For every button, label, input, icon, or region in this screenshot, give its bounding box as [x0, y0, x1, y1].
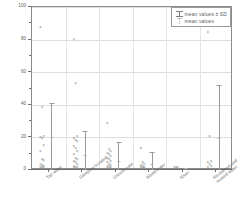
- gridline: [32, 72, 231, 73]
- data-point-marker: ×: [207, 31, 210, 36]
- y-tick-label: 20: [0, 134, 26, 139]
- data-point-marker: ×: [176, 166, 179, 171]
- y-tick: [28, 6, 31, 7]
- error-bar: [152, 152, 153, 170]
- group-separator: [200, 7, 201, 168]
- y-tick-minor: [29, 55, 31, 56]
- y-tick-label: 80: [0, 36, 26, 41]
- group-separator: [99, 7, 100, 168]
- mean-marker: [151, 164, 154, 165]
- legend: mean values ± SD mean values: [171, 7, 231, 27]
- data-point-marker: ×: [207, 166, 210, 171]
- data-point-marker: ×: [42, 167, 45, 172]
- y-tick: [28, 71, 31, 72]
- chart-container: EC(mS/m) ×××××××××××××××××××××××××××××××…: [0, 0, 240, 217]
- y-tick-minor: [29, 120, 31, 121]
- error-bar-cap: [49, 103, 54, 104]
- data-point-marker: ×: [74, 81, 77, 86]
- legend-label-mean: mean values: [185, 18, 214, 24]
- data-point-marker: ×: [106, 167, 109, 172]
- y-tick-minor: [29, 153, 31, 154]
- data-point-marker: ×: [76, 166, 79, 171]
- data-point-marker: ×: [41, 106, 44, 111]
- data-point-marker: ×: [208, 135, 211, 140]
- y-tick-label: 100: [0, 3, 26, 8]
- data-point-marker: ×: [39, 150, 42, 155]
- data-point-marker: ×: [73, 37, 76, 42]
- error-bar-cap: [150, 152, 155, 153]
- legend-label-mean-sd: mean values ± SD: [185, 11, 227, 17]
- legend-item-mean: mean values: [174, 17, 227, 24]
- data-point-marker: ×: [41, 137, 44, 142]
- mean-marker: [50, 137, 53, 138]
- data-point-marker: ×: [39, 26, 42, 31]
- error-bar-cap: [83, 131, 88, 132]
- y-tick-label: 60: [0, 69, 26, 74]
- y-tick-label: 40: [0, 101, 26, 106]
- data-point-marker: ×: [73, 167, 76, 172]
- y-tick: [28, 169, 31, 170]
- y-tick: [28, 104, 31, 105]
- error-bar: [85, 131, 86, 170]
- x-tick-label: River: [179, 170, 190, 180]
- data-point-marker: ×: [210, 164, 213, 169]
- mean-marker-icon: [174, 17, 185, 24]
- error-bar-cap: [116, 142, 121, 143]
- data-point-marker: ×: [140, 147, 143, 152]
- y-tick: [28, 39, 31, 40]
- error-bar: [219, 85, 220, 170]
- data-point-marker: ×: [106, 122, 109, 127]
- y-tick-minor: [29, 88, 31, 89]
- y-tick-label: 0: [0, 166, 26, 171]
- group-separator: [133, 7, 134, 168]
- gridline: [32, 40, 231, 41]
- gridline: [32, 105, 231, 106]
- data-point-marker: ×: [42, 144, 45, 149]
- mean-marker: [218, 138, 221, 139]
- error-bar-cap: [217, 85, 222, 86]
- y-tick: [28, 136, 31, 137]
- data-point-marker: ×: [143, 167, 146, 172]
- group-separator: [66, 7, 67, 168]
- errorbar-icon: [174, 10, 185, 17]
- data-point-marker: ×: [76, 150, 79, 155]
- mean-marker: [117, 161, 120, 162]
- mean-marker: [84, 155, 87, 156]
- plot-area: ××××××××××××××××××××××××××××××××××××××××…: [31, 6, 232, 169]
- data-point-marker: ×: [76, 140, 79, 145]
- data-point-marker: ×: [109, 166, 112, 171]
- legend-item-mean-sd: mean values ± SD: [174, 10, 227, 17]
- group-separator: [166, 7, 167, 168]
- error-bar: [118, 142, 119, 170]
- gridline: [32, 137, 231, 138]
- y-tick-minor: [29, 22, 31, 23]
